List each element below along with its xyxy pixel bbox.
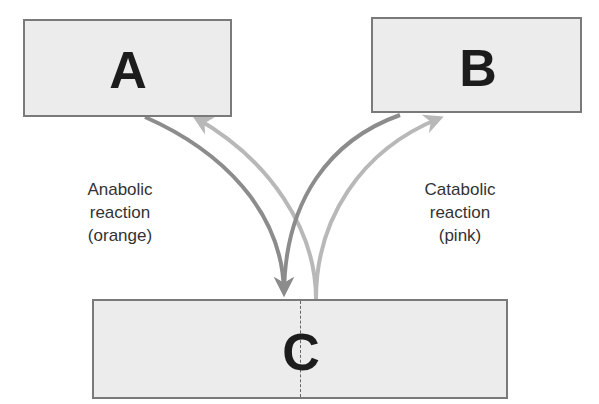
box-c-label: C — [271, 326, 331, 378]
box-a-label: A — [98, 44, 158, 96]
anabolic-reaction-label: Anabolic reaction (orange) — [60, 178, 180, 247]
box-b-label: B — [448, 42, 508, 94]
catabolic-line2: reaction — [400, 201, 520, 224]
catabolic-line3: (pink) — [400, 224, 520, 247]
catabolic-reaction-label: Catabolic reaction (pink) — [400, 178, 520, 247]
anabolic-line2: reaction — [60, 201, 180, 224]
catabolic-line1: Catabolic — [400, 178, 520, 201]
anabolic-line3: (orange) — [60, 224, 180, 247]
anabolic-line1: Anabolic — [60, 178, 180, 201]
